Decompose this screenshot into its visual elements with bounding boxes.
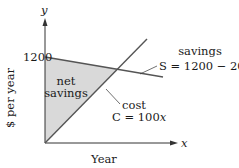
x-axis [45,141,178,146]
x-axis-variable: x [181,136,188,150]
x-axis-label: Year [90,152,117,166]
cost-equation: C = 100x [112,110,167,124]
y-axis-label: $ per year [3,68,17,128]
net-savings-diagram: y x 1200 $ per year Year net savings sav… [0,0,239,168]
savings-equation: S = 1200 − 20x [159,59,239,73]
x-axis-arrow-icon [170,141,178,146]
y-axis-variable: y [40,3,48,17]
savings-leader-line [140,66,157,74]
y-axis-arrow-icon [43,18,48,26]
y-tick-1200: 1200 [23,50,52,64]
cost-leader-line [106,89,120,104]
net-label-line2: savings [44,86,88,100]
savings-label: savings [178,44,222,58]
net-savings-region [45,57,118,143]
